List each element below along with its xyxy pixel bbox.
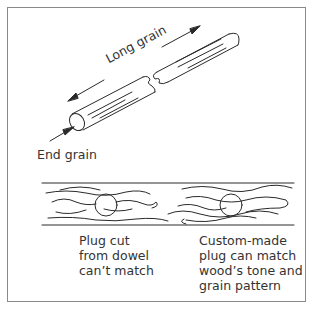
dowel-left-piece bbox=[66, 76, 155, 133]
end-grain-label: End grain bbox=[37, 147, 97, 162]
custom-plug-circle bbox=[220, 194, 242, 216]
dowel-plug-circle bbox=[95, 194, 117, 216]
dowel-right-piece bbox=[153, 33, 239, 84]
long-grain-arrow-left bbox=[68, 80, 104, 101]
board-illustration bbox=[42, 183, 294, 225]
right-plug-caption: Custom-made plug can match wood’s tone a… bbox=[199, 233, 303, 293]
end-grain-arrow bbox=[50, 127, 74, 141]
long-grain-arrow-right bbox=[162, 26, 200, 47]
left-plug-caption: Plug cut from dowel can’t match bbox=[79, 233, 154, 278]
